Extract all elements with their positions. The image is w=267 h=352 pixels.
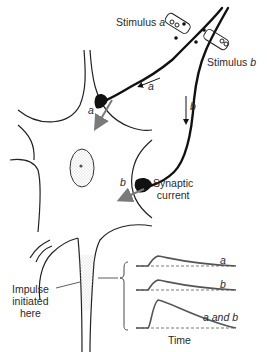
axon-b-arrow-label: b [190,100,196,112]
synaptic-current-label: Synaptic current [153,177,193,201]
synaptic-current-line1: Synaptic [153,177,193,189]
impulse-line2: initiated [12,295,49,307]
trace-a-label: a [220,254,226,266]
trace-b-label: b [220,278,226,290]
trace-a-and-b-label: a and b [203,311,238,323]
impulse-line3: here [12,307,49,319]
trace-brace [120,262,128,330]
stimulus-a-word: Stimulus [116,16,156,28]
nucleolus [79,164,82,167]
initial-segment-stipple [78,255,96,310]
synaptic-current-line2: current [153,189,193,201]
stimulus-a-electrode [164,12,192,35]
stimulus-b-label: Stimulus b [207,56,256,68]
impulse-initiated-label: Impulse initiated here [12,283,49,319]
axon-b [150,8,228,186]
time-axis-label: Time [168,334,191,346]
impulse-pointer [56,282,80,288]
stimulus-b-word: Stimulus [207,56,247,68]
stimulus-a-letter: a [159,16,165,28]
stimulus-b-letter: b [250,56,256,68]
axon-a-arrow-label: a [148,80,154,92]
impulse-line1: Impulse [12,283,49,295]
stimulus-a-label: Stimulus a [116,16,165,28]
nucleus [70,149,94,187]
current-b-label: b [120,176,126,188]
current-a-label: a [88,104,94,116]
terminal-a [95,94,109,109]
